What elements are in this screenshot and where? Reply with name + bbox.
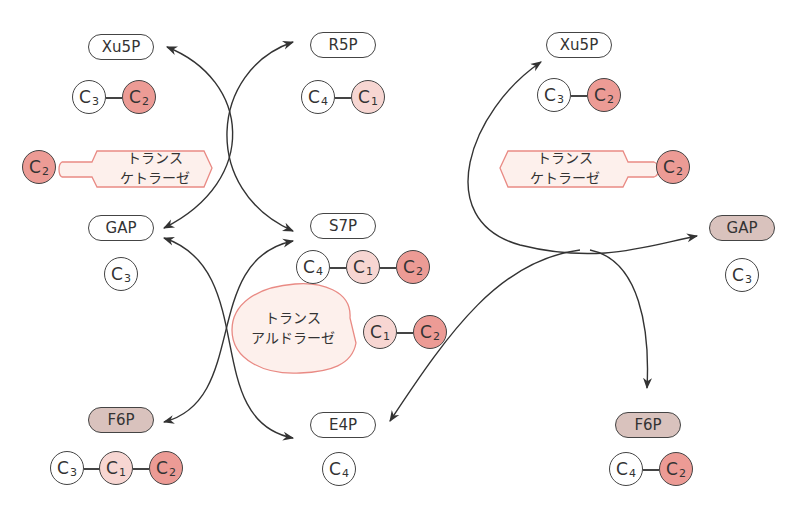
bond: [133, 468, 149, 470]
carbon-c4: C4: [609, 452, 643, 486]
arrow-gap-to-xu5p: [164, 47, 233, 228]
metabolite-f6p-right: F6P: [615, 412, 681, 438]
carried-carbon-c1: C1: [363, 315, 397, 349]
carbon-c1: C1: [346, 250, 380, 284]
metabolite-gap-right: GAP: [709, 215, 775, 241]
bond: [330, 267, 346, 269]
carbon-c3: C3: [104, 257, 138, 291]
carbon-c1: C1: [99, 451, 133, 485]
metabolite-gap-left: GAP: [88, 215, 154, 241]
carried-carbon-c2: C2: [413, 315, 447, 349]
carried-carbon-c2-left: C2: [22, 150, 56, 184]
carbon-c3: C3: [725, 258, 759, 292]
bond: [335, 97, 351, 99]
metabolite-e4p: E4P: [310, 412, 376, 438]
carbon-c2: C2: [587, 78, 621, 112]
carbon-c4: C4: [322, 452, 356, 486]
carbon-c2: C2: [122, 80, 156, 114]
carbon-c1: C1: [351, 80, 385, 114]
carried-carbon-c2-right: C2: [656, 150, 690, 184]
metabolite-s7p: S7P: [310, 213, 376, 239]
arrow-to-f6p: [590, 250, 647, 388]
bond: [397, 332, 413, 334]
carbon-c4: C4: [301, 80, 335, 114]
carbon-c2: C2: [149, 451, 183, 485]
bond: [84, 468, 100, 470]
metabolite-xu5p-right: Xu5P: [546, 32, 612, 58]
bond: [571, 95, 587, 97]
carbon-c4: C4: [296, 250, 330, 284]
metabolite-xu5p-left: Xu5P: [88, 34, 154, 60]
arrow-r5p-to-s7p: [227, 42, 293, 231]
enzyme-transketolase-right: トランスケトラーゼ: [515, 148, 615, 188]
carbon-c3: C3: [72, 80, 106, 114]
bond: [106, 97, 122, 99]
carbon-c2: C2: [396, 250, 430, 284]
metabolite-r5p: R5P: [310, 32, 376, 58]
metabolite-f6p-left: F6P: [88, 407, 154, 433]
carbon-c3: C3: [50, 451, 84, 485]
carbon-c3: C3: [537, 78, 571, 112]
enzyme-transaldolase: トランスアルドラーゼ: [238, 308, 348, 348]
bond: [643, 469, 659, 471]
enzyme-transketolase-left: トランスケトラーゼ: [105, 148, 205, 188]
carbon-c2: C2: [659, 452, 693, 486]
bond: [380, 267, 396, 269]
